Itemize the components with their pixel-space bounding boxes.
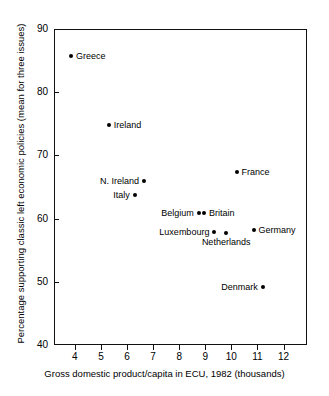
data-point-label: Britain [209,208,235,218]
y-tick-label: 40 [26,339,48,351]
x-tick-label: 8 [176,351,182,363]
data-point-label: Denmark [221,282,258,292]
scatter-plot-figure: 456789101112 405060708090 GreeceIrelandN… [0,0,329,396]
x-tick-mark [257,345,258,350]
data-point [133,193,137,197]
x-tick-mark [205,345,206,350]
plot-data-area: GreeceIrelandN. IrelandItalyFranceBelgiu… [54,29,307,345]
data-point [224,231,228,235]
x-tick-mark [101,345,102,350]
data-point [107,123,111,127]
x-tick-label: 12 [278,351,289,363]
x-tick-label: 9 [202,351,208,363]
data-point-label: Germany [259,225,296,235]
data-point [197,211,201,215]
x-tick-label: 5 [98,351,104,363]
y-axis-title: Percentage supporting classic left econo… [15,19,26,349]
data-point [69,54,73,58]
data-point-label: Greece [76,51,106,61]
data-point [252,228,256,232]
data-point-label: N. Ireland [100,176,139,186]
x-tick-mark [231,345,232,350]
x-tick-mark [75,345,76,350]
x-tick-label: 4 [72,351,78,363]
y-tick-label: 60 [26,213,48,225]
data-point-label: Ireland [114,120,142,130]
data-point-label: Luxembourg [159,227,209,237]
data-point-label: Italy [113,190,130,200]
data-point [235,170,239,174]
y-tick-label: 90 [26,23,48,35]
data-point-label: France [242,167,270,177]
x-tick-label: 6 [124,351,130,363]
y-tick-label: 70 [26,149,48,161]
y-tick-label: 80 [26,86,48,98]
data-point [142,179,146,183]
data-point [202,211,206,215]
x-tick-label: 7 [150,351,156,363]
x-tick-mark [179,345,180,350]
x-axis-title: Gross domestic product/capita in ECU, 19… [0,368,329,379]
x-tick-mark [284,345,285,350]
x-tick-mark [153,345,154,350]
y-tick-label: 50 [26,276,48,288]
data-point-label: Belgium [161,208,194,218]
x-tick-label: 10 [226,351,237,363]
data-point-label: Netherlands [202,237,251,247]
x-tick-mark [127,345,128,350]
x-tick-label: 11 [252,351,262,363]
data-point [261,285,265,289]
data-point [212,230,216,234]
